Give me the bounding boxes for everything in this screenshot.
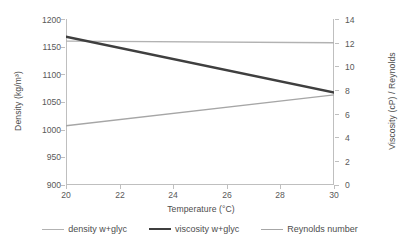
x-axis-tick-label: 28 [265, 190, 295, 200]
y-axis-right-tick-mark [335, 66, 339, 67]
legend-label-reynolds: Reynolds number [287, 224, 358, 234]
y-axis-left-tick-mark [61, 19, 65, 20]
y-axis-left-tick-label: 1200 [21, 15, 61, 25]
y-axis-right-tick-mark [335, 137, 339, 138]
series-line [66, 41, 334, 43]
y-axis-left-tick-mark [61, 157, 65, 158]
y-axis-left-tick-label: 900 [21, 180, 61, 190]
x-axis-tick-label: 26 [212, 190, 242, 200]
plot-area [66, 19, 334, 185]
chart-container: Density (kg/m³) Viscosity (cP) / Reynold… [0, 0, 400, 245]
x-axis-tick-mark [120, 185, 121, 189]
y-axis-left-tick-label: 1150 [21, 42, 61, 52]
series-line [66, 37, 334, 93]
x-axis-title: Temperature (°C) [64, 204, 338, 214]
y-axis-right-tick-label: 8 [345, 86, 375, 96]
y-axis-right-tick-mark [335, 43, 339, 44]
chart-legend: density w+glyc viscosity w+glyc Reynolds… [0, 224, 400, 234]
x-axis-tick-mark [66, 185, 67, 189]
y-axis-left-tick-label: 1000 [21, 125, 61, 135]
y-axis-right-tick-label: 2 [345, 157, 375, 167]
y-axis-right-tick-label: 0 [345, 180, 375, 190]
x-axis-tick-label: 20 [51, 190, 81, 200]
y-axis-left-tick-label: 1050 [21, 97, 61, 107]
y-axis-right-title: Viscosity (cP) / Reynolds [387, 17, 397, 185]
y-axis-right-tick-label: 10 [345, 62, 375, 72]
legend-label-viscosity: viscosity w+glyc [175, 224, 239, 234]
legend-item-reynolds[interactable]: Reynolds number [261, 224, 358, 234]
y-axis-left-tick-mark [61, 102, 65, 103]
legend-swatch-reynolds [261, 229, 283, 230]
y-axis-right-tick-mark [335, 90, 339, 91]
y-axis-right-tick-mark [335, 185, 339, 186]
y-axis-left-tick-mark [61, 130, 65, 131]
series-line [66, 95, 334, 126]
y-axis-right-tick-label: 4 [345, 133, 375, 143]
legend-label-density: density w+glyc [68, 224, 127, 234]
y-axis-right-tick-label: 12 [345, 39, 375, 49]
legend-swatch-density [42, 229, 64, 230]
legend-item-viscosity[interactable]: viscosity w+glyc [149, 224, 239, 234]
x-axis-tick-mark [334, 185, 335, 189]
series-lines [66, 19, 334, 185]
legend-item-density[interactable]: density w+glyc [42, 224, 127, 234]
y-axis-left-tick-label: 950 [21, 152, 61, 162]
y-axis-right-tick-label: 6 [345, 110, 375, 120]
y-axis-left-tick-mark [61, 185, 65, 186]
y-axis-left-tick-mark [61, 74, 65, 75]
x-axis-tick-label: 24 [158, 190, 188, 200]
x-axis-tick-mark [227, 185, 228, 189]
y-axis-right-tick-mark [335, 19, 339, 20]
x-axis-tick-mark [173, 185, 174, 189]
x-axis-tick-label: 22 [105, 190, 135, 200]
x-axis-tick-label: 30 [319, 190, 349, 200]
legend-swatch-viscosity [149, 228, 171, 230]
y-axis-left-tick-label: 1100 [21, 70, 61, 80]
y-axis-right-tick-mark [335, 114, 339, 115]
y-axis-left-tick-mark [61, 47, 65, 48]
x-axis-tick-mark [280, 185, 281, 189]
y-axis-right-tick-mark [335, 161, 339, 162]
y-axis-right-tick-label: 14 [345, 15, 375, 25]
